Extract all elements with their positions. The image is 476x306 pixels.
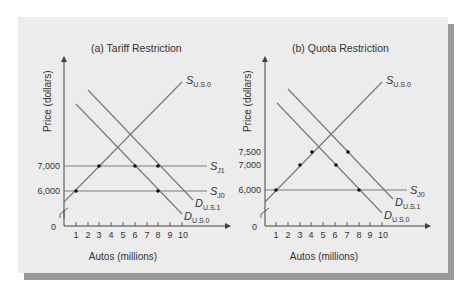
line-SUS0	[64, 82, 182, 202]
line-SUS0	[265, 82, 382, 202]
chart-b-ytick-7500: 7,500	[238, 147, 261, 157]
chart-svg: (a) Tariff Restriction Price (dollars) 1…	[0, 0, 476, 306]
chart-b-ytick-7000: 7,000	[238, 160, 261, 170]
svg-text:SU.S.0: SU.S.0	[186, 74, 211, 88]
chart-a-ytick-7000: 7,000	[37, 161, 60, 171]
svg-text:2: 2	[285, 230, 290, 240]
svg-text:6: 6	[332, 230, 337, 240]
line-DUS1	[88, 90, 193, 200]
chart-a-ylabel: Price (dollars)	[42, 70, 53, 132]
svg-text:SU.S.0: SU.S.0	[386, 74, 411, 88]
chart-b-x-ticks: 12345678910	[273, 230, 388, 240]
svg-text:7: 7	[344, 230, 349, 240]
svg-text:SJ0: SJ0	[210, 185, 225, 199]
chart-b-title: (b) Quota Restriction	[292, 42, 389, 54]
line-DUS0	[277, 103, 382, 213]
chart-b-xlabel: Autos (millions)	[290, 251, 358, 262]
chart-a-origin: 0	[51, 222, 56, 232]
chart-a: (a) Tariff Restriction Price (dollars) 1…	[37, 42, 230, 262]
chart-a-xlabel: Autos (millions)	[89, 251, 157, 262]
chart-b-ylabel: Price (dollars)	[242, 70, 253, 132]
chart-b: (b) Quota Restriction Price (dollars) 12…	[238, 42, 430, 262]
svg-text:SJ0: SJ0	[410, 184, 425, 198]
svg-text:SJ1: SJ1	[210, 160, 225, 174]
svg-text:3: 3	[297, 230, 302, 240]
chart-b-ytick-6000: 6,000	[238, 185, 261, 195]
svg-text:10: 10	[178, 230, 188, 240]
svg-text:5: 5	[320, 230, 325, 240]
svg-text:4: 4	[308, 230, 313, 240]
svg-text:1: 1	[273, 230, 278, 240]
svg-text:10: 10	[378, 230, 388, 240]
svg-text:DU.S.0: DU.S.0	[184, 210, 210, 224]
line-DUS1	[288, 89, 393, 199]
svg-text:DU.S.1: DU.S.1	[195, 197, 221, 211]
svg-text:9: 9	[167, 230, 172, 240]
svg-text:8: 8	[356, 230, 361, 240]
svg-text:7: 7	[144, 230, 149, 240]
chart-a-ytick-6000: 6,000	[37, 186, 60, 196]
chart-a-title: (a) Tariff Restriction	[91, 42, 182, 54]
svg-text:9: 9	[367, 230, 372, 240]
chart-a-x-ticks: 12345678910	[73, 230, 188, 240]
svg-text:2: 2	[85, 230, 90, 240]
svg-text:DU.S.1: DU.S.1	[395, 196, 421, 210]
svg-text:8: 8	[155, 230, 160, 240]
svg-text:1: 1	[73, 230, 78, 240]
svg-text:DU.S.0: DU.S.0	[384, 209, 410, 223]
svg-text:3: 3	[96, 230, 101, 240]
svg-text:6: 6	[132, 230, 137, 240]
svg-text:0: 0	[252, 222, 257, 232]
svg-text:5: 5	[120, 230, 125, 240]
svg-text:4: 4	[108, 230, 113, 240]
line-DUS0	[76, 104, 182, 214]
